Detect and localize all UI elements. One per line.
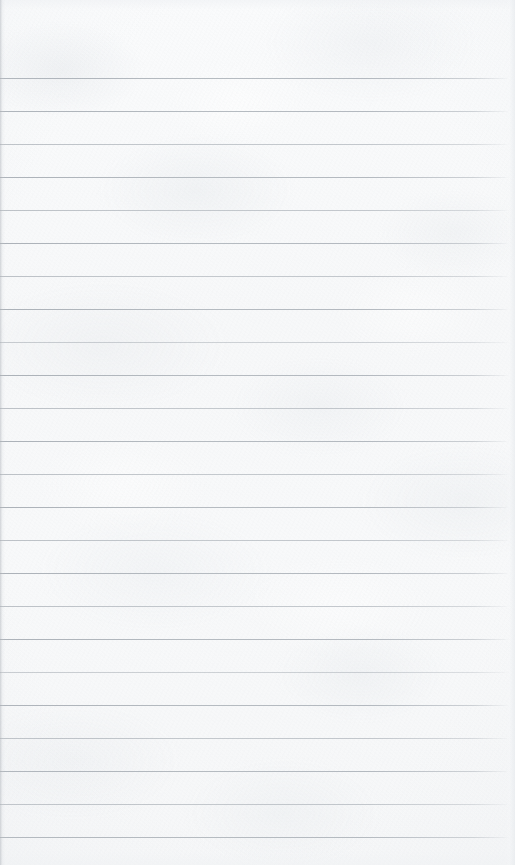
page-edge-left — [0, 0, 5, 865]
page-edge-top — [0, 0, 515, 10]
scanned-paper-page — [0, 0, 515, 865]
page-edge-bottom — [0, 851, 515, 865]
page-vignette — [0, 0, 515, 865]
page-edge-right — [505, 0, 515, 865]
